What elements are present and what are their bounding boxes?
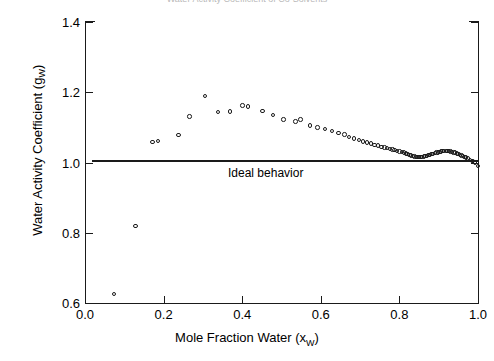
data-point <box>347 135 351 139</box>
x-axis-title-close: ) <box>315 330 319 345</box>
y-axis-tick <box>86 303 93 304</box>
data-point <box>112 292 116 296</box>
data-point <box>352 136 356 140</box>
data-point <box>216 110 220 114</box>
y-axis-tick-label: 0.8 <box>62 226 80 239</box>
x-axis-title-subscript: W <box>306 338 315 348</box>
x-axis-tick-label: 0.6 <box>312 308 330 322</box>
data-point <box>260 109 264 113</box>
data-point <box>323 127 327 131</box>
data-point <box>315 125 319 129</box>
data-point <box>156 139 160 143</box>
x-axis-title-main: Mole Fraction Water (x <box>175 330 306 345</box>
x-axis-tick-label: 1.0 <box>469 308 487 322</box>
y-axis-title: Water Activity Coefficient (gW) <box>30 0 51 300</box>
data-point <box>271 113 275 117</box>
x-axis-line <box>85 303 479 304</box>
x-axis-title: Mole Fraction Water (xW) <box>0 330 494 351</box>
x-axis-tick-label: 0.0 <box>76 308 94 322</box>
y-axis-tick-label: 1.0 <box>62 156 80 169</box>
y-axis-tick-label: 1.4 <box>62 16 80 29</box>
right-frame-line <box>478 21 479 304</box>
data-point <box>228 109 232 113</box>
data-point <box>281 117 285 121</box>
cut-off-figure-title-text: Water Activity Coefficient of Co-Solvent… <box>167 0 328 4</box>
data-point <box>336 131 340 135</box>
plot-area <box>85 22 478 303</box>
data-point <box>293 119 297 123</box>
y-axis-title-main: Water Activity Coefficient (g <box>30 78 45 236</box>
data-point <box>133 224 137 228</box>
data-point <box>308 123 312 127</box>
y-axis-title-close: ) <box>30 65 45 69</box>
data-point <box>150 140 154 144</box>
y-axis-tick-label: 1.2 <box>62 86 80 99</box>
data-point <box>330 129 334 133</box>
data-point <box>342 132 346 136</box>
data-point <box>476 164 480 168</box>
x-axis-tick-label: 0.2 <box>155 308 173 322</box>
cut-off-figure-title: Water Activity Coefficient of Co-Solvent… <box>0 0 494 9</box>
data-point <box>298 117 302 121</box>
y-axis-title-subscript: W <box>37 69 47 78</box>
x-axis-tick-label: 0.8 <box>390 308 408 322</box>
y-axis-tick-right <box>471 303 478 304</box>
data-point <box>240 103 244 107</box>
data-point <box>246 104 250 108</box>
chart-figure: Water Activity Coefficient of Co-Solvent… <box>0 0 494 361</box>
data-point <box>187 114 191 118</box>
x-axis-tick-label: 0.4 <box>233 308 251 322</box>
x-axis-tick <box>478 296 479 303</box>
data-point <box>176 133 180 137</box>
data-point <box>203 94 207 98</box>
